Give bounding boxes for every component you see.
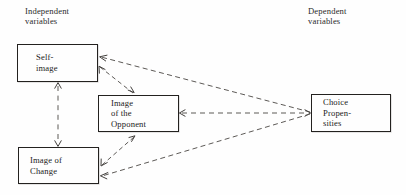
edge-self-image-to-change bbox=[55, 83, 62, 147]
node-choice-propensities[interactable]: Choice Propen- sities bbox=[311, 94, 391, 132]
node-image-of-the-opponent-label: Image of the Opponent bbox=[99, 98, 146, 130]
node-image-of-change-label: Image of Change bbox=[19, 155, 62, 176]
node-self-image[interactable]: Self- image bbox=[17, 44, 98, 82]
edge-change-to-opponent bbox=[101, 136, 135, 166]
diagram-canvas: Independent variables Dependent variable… bbox=[0, 0, 406, 195]
edge-opponent-to-choice bbox=[179, 110, 310, 117]
edge-self-image-to-opponent bbox=[99, 66, 134, 93]
node-self-image-label: Self- image bbox=[18, 52, 58, 73]
node-image-of-the-opponent[interactable]: Image of the Opponent bbox=[98, 95, 179, 132]
node-choice-propensities-label: Choice Propen- sities bbox=[312, 97, 351, 129]
node-image-of-change[interactable]: Image of Change bbox=[18, 147, 99, 184]
